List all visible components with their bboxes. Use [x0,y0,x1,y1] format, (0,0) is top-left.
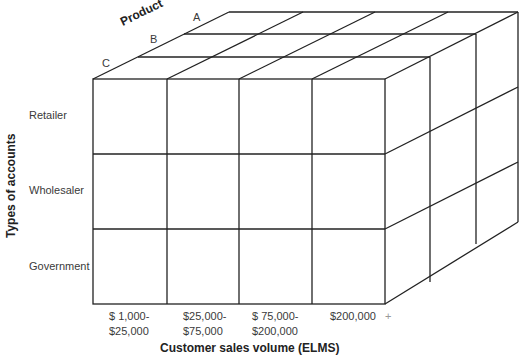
col-label-1: $ 1,000- $25,000 [109,309,149,339]
row-label-government: Government [29,259,90,274]
accounts-axis-title: Types of accounts [4,134,19,238]
cube-grid [0,0,526,360]
sales-volume-axis-title: Customer sales volume (ELMS) [160,341,339,356]
product-label-c: C [102,56,110,71]
col-label-2: $25,000- $75,000 [183,309,226,339]
row-label-wholesaler: Wholesaler [29,183,84,198]
product-label-a: A [193,10,200,25]
plus-suffix: + [385,310,391,322]
product-label-b: B [150,32,157,47]
row-label-retailer: Retailer [29,108,67,123]
col-label-4: $200,000 + [330,309,391,324]
col-label-3: $ 75,000- $200,000 [252,309,298,339]
